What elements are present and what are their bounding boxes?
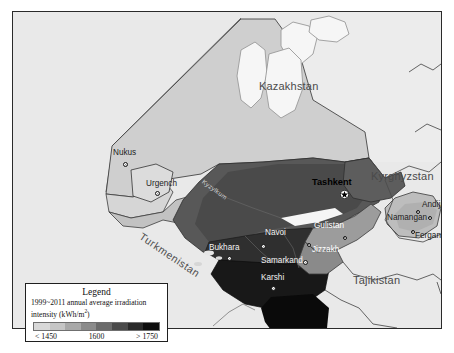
legend-description-line1: 1999~2011 annual average irradiation — [31, 298, 146, 307]
legend-tick-mid: 1600 — [89, 332, 105, 341]
city-marker-urgench — [155, 191, 160, 196]
map-graphic — [13, 12, 441, 328]
city-marker-gulistan — [343, 236, 347, 240]
city-marker-karshi — [271, 286, 276, 291]
region-termez-fill — [261, 294, 329, 328]
capital-star-icon — [340, 190, 349, 199]
legend-description-line2-pre: intensity (kWh/m — [31, 310, 84, 319]
figure-canvas: Kazakhstan Kyrghyzstan Tajikistan Afghan… — [0, 0, 454, 353]
legend-gradient-bar — [33, 322, 160, 331]
legend-box: Legend 1999~2011 annual average irradiat… — [25, 283, 168, 342]
city-marker-andijan — [416, 210, 420, 214]
lake-small-2 — [216, 256, 222, 260]
city-marker-namangan — [428, 216, 432, 220]
city-marker-jizzakh — [307, 243, 311, 247]
legend-tick-high: > 1750 — [136, 332, 158, 341]
map-frame: Kazakhstan Kyrghyzstan Tajikistan Afghan… — [12, 11, 442, 329]
city-marker-samarkand — [303, 260, 308, 265]
legend-title: Legend — [31, 287, 162, 297]
city-marker-navoi — [261, 244, 266, 249]
city-marker-fergana — [411, 230, 415, 234]
city-marker-bukhara — [227, 256, 232, 261]
legend-tick-low: < 1450 — [35, 332, 57, 341]
lake-small-3 — [194, 262, 202, 266]
legend-description: 1999~2011 annual average irradiation int… — [31, 298, 162, 319]
legend-tick-labels: < 1450 1600 > 1750 — [31, 332, 162, 341]
legend-description-line2-post: ) — [87, 310, 90, 319]
lake-small-1 — [204, 251, 214, 256]
city-marker-nukus — [123, 162, 128, 167]
